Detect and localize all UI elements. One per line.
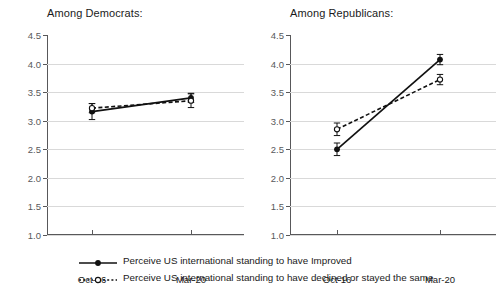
data-point-with-error-bar	[334, 143, 340, 156]
y-axis-tick-label: 4.0	[28, 58, 41, 69]
gridline	[290, 235, 496, 236]
data-point-with-error-bar	[437, 74, 443, 84]
chart-panel-democrats: Among Democrats: 1.01.52.02.53.03.54.04.…	[0, 0, 252, 250]
legend-item-improved: Perceive US international standing to ha…	[0, 252, 504, 269]
y-axis-tick-mark	[286, 235, 290, 236]
data-point-with-error-bar	[334, 123, 340, 136]
series-layer	[290, 35, 496, 235]
gridline	[47, 235, 244, 236]
legend-marker-dashed-open-circle-icon	[78, 272, 118, 284]
y-axis-tick-label: 3.0	[28, 115, 41, 126]
y-axis-tick-label: 4.5	[28, 30, 41, 41]
chart-legend: Perceive US international standing to ha…	[0, 252, 504, 286]
y-axis-tick-label: 3.5	[28, 87, 41, 98]
data-point-marker	[89, 106, 94, 111]
y-axis-tick-label: 1.5	[28, 201, 41, 212]
series-line	[92, 98, 191, 112]
data-point-marker	[437, 77, 442, 82]
data-point-with-error-bar	[437, 54, 443, 64]
y-axis-tick-label: 1.0	[28, 230, 41, 241]
y-axis-tick-label: 4.5	[271, 30, 284, 41]
data-point-marker	[334, 127, 339, 132]
y-axis-tick-label: 2.0	[28, 172, 41, 183]
data-point-with-error-bar	[188, 94, 194, 108]
plot-area-republicans: 1.01.52.02.53.03.54.04.5Oct-16Mar-20	[290, 35, 496, 235]
data-point-marker	[437, 57, 443, 63]
legend-marker-solid-filled-circle-icon	[78, 255, 118, 267]
y-axis-tick-label: 2.5	[28, 144, 41, 155]
series-layer	[47, 35, 244, 235]
y-axis-tick-label: 3.5	[271, 87, 284, 98]
chart-title-republicans: Among Republicans:	[290, 7, 393, 19]
y-axis-tick-label: 1.0	[271, 230, 284, 241]
series-line	[337, 60, 440, 150]
plot-area-democrats: 1.01.52.02.53.03.54.04.5Oct-16Mar-20	[47, 35, 244, 235]
y-axis-tick-label: 4.0	[271, 58, 284, 69]
data-point-marker	[334, 146, 340, 152]
data-point-marker	[188, 98, 193, 103]
y-axis-tick-label: 2.0	[271, 172, 284, 183]
chart-title-democrats: Among Democrats:	[47, 7, 143, 19]
y-axis-tick-label: 3.0	[271, 115, 284, 126]
y-axis-tick-mark	[43, 235, 47, 236]
y-axis-tick-label: 1.5	[271, 201, 284, 212]
legend-label-improved: Perceive US international standing to ha…	[123, 255, 352, 266]
y-axis-tick-label: 2.5	[271, 144, 284, 155]
legend-label-declined: Perceive US international standing to ha…	[123, 272, 433, 283]
legend-item-declined: Perceive US international standing to ha…	[0, 269, 504, 286]
chart-panel-republicans: Among Republicans: 1.01.52.02.53.03.54.0…	[252, 0, 504, 250]
